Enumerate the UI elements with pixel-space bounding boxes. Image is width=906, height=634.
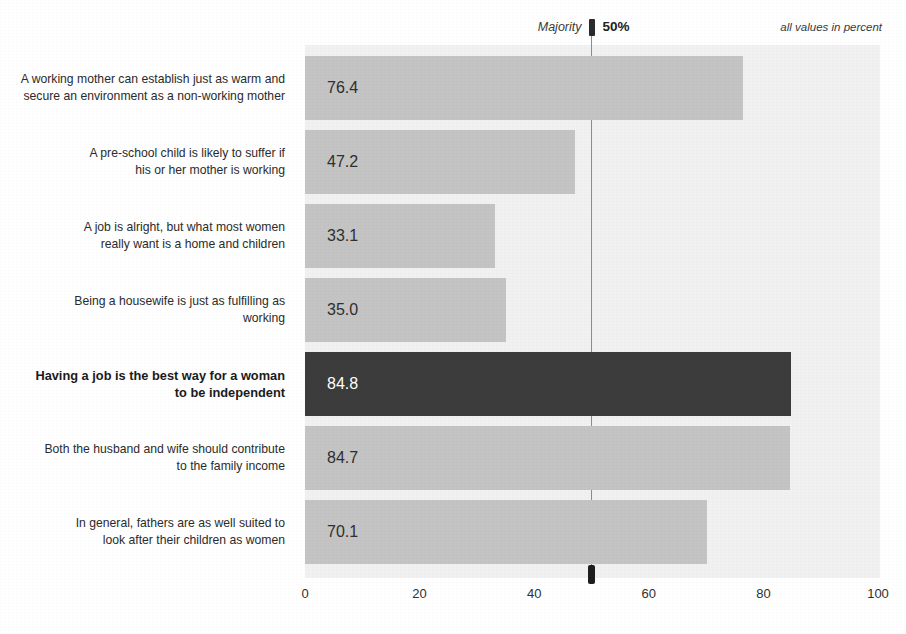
bar-value-label: 84.7 xyxy=(327,449,358,467)
bar: 84.8 xyxy=(305,352,791,416)
bar-row-label-line: In general, fathers are as well suited t… xyxy=(10,515,285,532)
bar: 47.2 xyxy=(305,130,575,194)
bar-row-label-line: A job is alright, but what most women xyxy=(10,219,285,236)
bar-row: A working mother can establish just as w… xyxy=(0,56,906,120)
bar-row-label-line: to the family income xyxy=(10,458,285,475)
bar: 84.7 xyxy=(305,426,790,490)
bar-value-label: 47.2 xyxy=(327,153,358,171)
bar-row: Having a job is the best way for a woman… xyxy=(0,352,906,416)
bar: 35.0 xyxy=(305,278,506,342)
x-axis-tick-label: 100 xyxy=(867,586,889,601)
bar-value-label: 84.8 xyxy=(327,375,358,393)
bar: 33.1 xyxy=(305,204,495,268)
bar-row-label-line: to be independent xyxy=(10,384,285,401)
bar-chart-figure: Majority 50% all values in percent A wor… xyxy=(0,0,906,634)
bar-row-label-line: look after their children as women xyxy=(10,532,285,549)
bar-row-label-line: Being a housewife is just as fulfilling … xyxy=(10,293,285,310)
bar-row-label: Both the husband and wife should contrib… xyxy=(10,441,285,475)
bar-row-label-line: secure an environment as a non-working m… xyxy=(10,88,285,105)
x-axis-tick-label: 40 xyxy=(527,586,541,601)
bar-row-label: In general, fathers are as well suited t… xyxy=(10,515,285,549)
bar-row-label-line: Having a job is the best way for a woman xyxy=(10,367,285,384)
bar-rows-group: A working mother can establish just as w… xyxy=(0,0,906,634)
x-axis-tick-label: 60 xyxy=(642,586,656,601)
bar: 76.4 xyxy=(305,56,743,120)
x-axis: 020406080100 xyxy=(305,586,878,610)
bar-row-label-line: working xyxy=(10,310,285,327)
bar-row-label: Being a housewife is just as fulfilling … xyxy=(10,293,285,327)
x-axis-tick-label: 0 xyxy=(301,586,308,601)
bar-row-label-line: A pre-school child is likely to suffer i… xyxy=(10,145,285,162)
x-axis-tick-label: 20 xyxy=(412,586,426,601)
bar-row-label-line: Both the husband and wife should contrib… xyxy=(10,441,285,458)
bar-value-label: 33.1 xyxy=(327,227,358,245)
bar-row-label-line: A working mother can establish just as w… xyxy=(10,71,285,88)
bar-row: A pre-school child is likely to suffer i… xyxy=(0,130,906,194)
bar-row-label: A pre-school child is likely to suffer i… xyxy=(10,145,285,179)
bar-row-label: A working mother can establish just as w… xyxy=(10,71,285,105)
x-axis-tick-label: 80 xyxy=(756,586,770,601)
bar-row: A job is alright, but what most womenrea… xyxy=(0,204,906,268)
bar: 70.1 xyxy=(305,500,707,564)
bar-row: Being a housewife is just as fulfilling … xyxy=(0,278,906,342)
bar-row-label: A job is alright, but what most womenrea… xyxy=(10,219,285,253)
bar-row: In general, fathers are as well suited t… xyxy=(0,500,906,564)
bar-row-label-line: really want is a home and children xyxy=(10,236,285,253)
bar-row-label-line: his or her mother is working xyxy=(10,162,285,179)
bar-row: Both the husband and wife should contrib… xyxy=(0,426,906,490)
bar-value-label: 76.4 xyxy=(327,79,358,97)
bar-value-label: 70.1 xyxy=(327,523,358,541)
bar-value-label: 35.0 xyxy=(327,301,358,319)
bar-row-label: Having a job is the best way for a woman… xyxy=(10,367,285,401)
